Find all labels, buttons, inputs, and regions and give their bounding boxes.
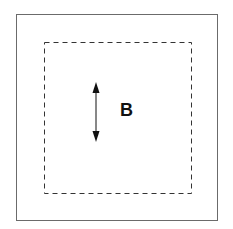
double-arrow-icon <box>93 82 100 142</box>
field-label: B <box>120 101 133 119</box>
diagram-canvas <box>0 0 233 229</box>
dashed-region <box>45 43 192 194</box>
